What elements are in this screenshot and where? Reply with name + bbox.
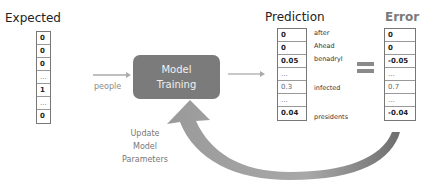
error-cell: 0 (385, 42, 415, 55)
update-label-line3: Parameters (120, 153, 170, 166)
prediction-cell: 0.05 (278, 55, 306, 68)
input-word-label: people (94, 82, 121, 91)
prediction-title: Prediction (265, 10, 325, 24)
error-cell: 0.7 (385, 81, 415, 94)
expected-cell: 0 (37, 110, 50, 123)
update-label-line2: Model (120, 140, 170, 153)
expected-cell: 0 (37, 32, 50, 45)
model-training-box: Model Training (133, 55, 220, 99)
error-title: Error (385, 10, 419, 24)
error-cell: -0.05 (385, 55, 415, 68)
vocab-word: presidents (314, 113, 348, 121)
vocab-word: after (314, 29, 329, 37)
prediction-cell: ... (278, 94, 306, 107)
expected-title: Expected (5, 11, 61, 25)
prediction-cell: ... (278, 68, 306, 81)
model-label-line2: Training (133, 77, 220, 92)
error-cell: ... (385, 68, 415, 81)
model-label-line1: Model (133, 62, 220, 77)
output-arrow (228, 71, 265, 77)
error-vector: 0 0 -0.05 ... 0.7 ... -0.04 (384, 28, 416, 121)
equals-icon (357, 62, 374, 73)
input-arrow (93, 72, 131, 78)
vocab-word: Ahead (314, 42, 335, 50)
vocab-word: infected (314, 84, 340, 92)
expected-cell: 1 (37, 84, 50, 97)
expected-cell: ... (37, 97, 50, 110)
prediction-cell: 0.04 (278, 107, 306, 120)
update-parameters-label: Update Model Parameters (120, 127, 170, 166)
prediction-cell: 0 (278, 42, 306, 55)
update-label-line1: Update (120, 127, 170, 140)
expected-cell: 0 (37, 58, 50, 71)
prediction-cell: 0.3 (278, 81, 306, 94)
expected-cell: 0 (37, 45, 50, 58)
error-cell: 0 (385, 29, 415, 42)
expected-vector: 0 0 0 ... 1 ... 0 (36, 31, 51, 124)
error-cell: ... (385, 94, 415, 107)
error-cell: -0.04 (385, 107, 415, 120)
vocab-word: benadryl (314, 55, 343, 63)
prediction-vector: 0 0 0.05 ... 0.3 ... 0.04 (277, 28, 307, 121)
expected-cell: ... (37, 71, 50, 84)
prediction-cell: 0 (278, 29, 306, 42)
